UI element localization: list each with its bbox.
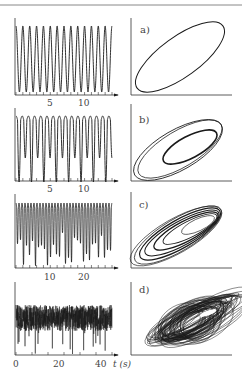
tick-label: 5 — [47, 98, 53, 108]
panel-a-phase: a) — [125, 10, 234, 105]
panel-d-timeseries: 0 20 40 t (s) — [13, 282, 132, 369]
panel-label-b: b) — [139, 114, 149, 125]
panel-d-phase: d) — [131, 277, 242, 358]
panel-b-phase: b) — [125, 104, 232, 192]
panel-label-a: a) — [140, 24, 150, 35]
panel-c-phase: c) — [122, 192, 232, 277]
x-axis-label: t (s) — [113, 359, 132, 369]
tick-label: 20 — [78, 272, 90, 282]
tick-label: 5 — [47, 184, 53, 194]
panel-label-d: d) — [139, 284, 149, 295]
tick-label: 10 — [78, 184, 90, 194]
panel-a-timeseries: 5 10 — [15, 18, 118, 108]
panel-b-timeseries: 5 10 — [15, 108, 118, 194]
tick-label: 20 — [53, 359, 65, 369]
panel-c-timeseries: 10 20 — [15, 194, 118, 282]
figure: 5 10 a) 5 10 b) 10 20 c) — [0, 0, 242, 380]
tick-label: 0 — [13, 359, 19, 369]
tick-label: 40 — [95, 359, 107, 369]
tick-label: 10 — [44, 272, 56, 282]
tick-label: 10 — [78, 98, 90, 108]
panel-label-c: c) — [139, 199, 149, 210]
